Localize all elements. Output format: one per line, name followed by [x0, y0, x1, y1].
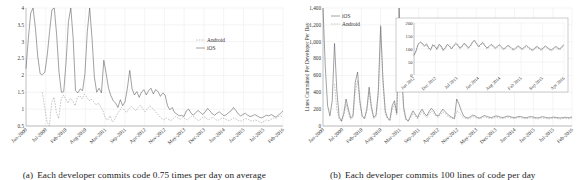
chart-lines-committed-per-developer: 02004006008001,0001,2001,400Jan-2009Jul-…: [289, 0, 577, 158]
x-axis-tick-label: Sep-2011: [402, 126, 421, 144]
x-axis-tick-label: Jan-2015: [517, 126, 535, 143]
chart-a-plot-area: 0.511.522.533.54Jan-2009Jul-2009Feb-2010…: [0, 0, 289, 158]
x-axis-tick-label: Jul-2009: [30, 126, 48, 143]
x-axis-tick-label: Jul-2009: [326, 126, 344, 143]
legend-label-ios: iOS: [342, 13, 350, 19]
x-axis-tick-label: Dec-2013: [478, 126, 498, 144]
caption-a-text: Each developer commits code 0.75 times p…: [37, 170, 266, 180]
x-axis-tick-label: Jan-2015: [227, 126, 245, 143]
y-axis-tick-label: 600: [313, 72, 321, 78]
x-axis-tick-label: Aug-2010: [68, 126, 88, 145]
caption-a-label: (a): [23, 170, 34, 180]
x-axis-tick-label: Sep-2011: [108, 126, 127, 144]
figure-two-panel: 0.511.522.533.54Jan-2009Jul-2009Feb-2010…: [0, 0, 577, 180]
x-axis-tick-label: Jul-2015: [537, 126, 555, 143]
inset-y-axis-tick-label: 50: [407, 60, 412, 65]
x-axis-tick-label: Apr-2012: [421, 126, 440, 144]
panel-a: 0.511.522.533.54Jan-2009Jul-2009Feb-2010…: [0, 0, 289, 180]
chart-commits-per-developer: 0.511.522.533.54Jan-2009Jul-2009Feb-2010…: [0, 0, 289, 158]
chart-b-plot-area: 02004006008001,0001,2001,400Jan-2009Jul-…: [289, 0, 577, 158]
y-axis-tick-label: 400: [313, 89, 321, 95]
inset-y-axis-tick-label: 200: [405, 21, 413, 26]
x-axis-tick-label: May-2013: [166, 126, 186, 145]
y-axis-tick-label: 4: [21, 5, 24, 11]
y-axis-tick-label: 200: [313, 106, 321, 112]
y-axis-tick-label: 800: [313, 55, 321, 61]
series-line-ios: [26, 8, 283, 118]
x-axis-tick-label: Feb-2016: [555, 126, 574, 144]
x-axis-tick-label: Feb-2010: [344, 126, 363, 144]
x-axis-tick-label: Jul-2015: [248, 126, 266, 143]
x-axis-tick-label: Apr-2012: [128, 126, 147, 144]
x-axis-tick-label: Aug-2010: [362, 126, 382, 145]
x-axis-tick-label: Nov-2012: [439, 126, 459, 145]
inset-y-axis-tick-label: 100: [405, 47, 413, 52]
y-axis-tick-label: 3.5: [18, 22, 25, 28]
legend-label-android: Android: [207, 37, 225, 43]
y-axis-title: Lines Committed Per Developer Per Day: [304, 22, 310, 111]
y-axis-tick-label: 1,200: [309, 22, 321, 28]
y-axis-tick-label: 2: [21, 72, 24, 78]
legend-label-android: Android: [342, 21, 360, 27]
x-axis-tick-label: May-2013: [458, 126, 478, 145]
y-axis-tick-label: 3: [21, 39, 24, 45]
x-axis-tick-label: Feb-2010: [49, 126, 68, 144]
caption-b-label: (b): [330, 170, 341, 180]
caption-a: (a)Each developer commits code 0.75 time…: [0, 170, 289, 180]
x-axis-tick-label: Mar-2011: [382, 126, 402, 144]
y-axis-tick-label: 1.5: [18, 89, 25, 95]
legend-label-ios: iOS: [207, 45, 215, 51]
x-axis-tick-label: Dec-2013: [187, 126, 207, 144]
x-axis-tick-label: Jun-2014: [207, 126, 226, 144]
y-axis-tick-label: 2.5: [18, 55, 25, 61]
x-axis-tick-label: Mar-2011: [88, 126, 108, 144]
x-axis-tick-label: Jan-2009: [307, 126, 325, 143]
x-axis-tick-label: Nov-2012: [147, 126, 167, 145]
y-axis-tick-label: 1,400: [309, 5, 321, 11]
caption-b: (b)Each developer commits 100 lines of c…: [289, 170, 577, 180]
panel-b: 02004006008001,0001,2001,400Jan-2009Jul-…: [289, 0, 577, 180]
x-axis-tick-label: Jun-2014: [498, 126, 517, 144]
caption-b-text: Each developer commits 100 lines of code…: [345, 170, 536, 180]
y-axis-tick-label: 1: [21, 106, 24, 112]
x-axis-tick-label: Feb-2016: [266, 126, 285, 144]
inset-y-axis-tick-label: 150: [405, 34, 413, 39]
y-axis-tick-label: 1,000: [309, 39, 321, 45]
